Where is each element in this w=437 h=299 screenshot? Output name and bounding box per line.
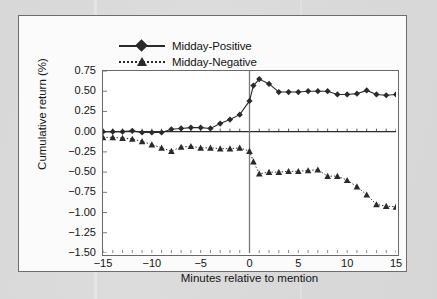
data-point-marker bbox=[344, 177, 351, 183]
x-tick-label: 15 bbox=[390, 257, 402, 269]
x-tick-label: 5 bbox=[295, 257, 301, 269]
legend-item-midday-positive: Midday-Positive bbox=[119, 38, 299, 54]
data-point-marker bbox=[266, 169, 273, 175]
data-point-marker bbox=[119, 129, 125, 135]
data-point-marker bbox=[285, 89, 291, 95]
data-point-marker bbox=[250, 158, 257, 164]
data-point-marker bbox=[159, 129, 165, 135]
data-point-marker bbox=[373, 91, 379, 97]
x-tick-label: 10 bbox=[341, 257, 353, 269]
data-point-marker bbox=[315, 88, 321, 94]
x-tick-label: −15 bbox=[94, 257, 113, 269]
x-tick-label: −10 bbox=[142, 257, 161, 269]
diamond-marker-icon bbox=[135, 39, 148, 52]
data-point-marker bbox=[246, 148, 253, 154]
y-axis-tick-labels: 0.750.500.250.00−0.25−0.50−0.75−1.00−1.2… bbox=[53, 70, 100, 254]
data-point-marker bbox=[227, 116, 233, 122]
plot-area bbox=[102, 70, 399, 256]
data-point-marker bbox=[325, 88, 331, 94]
y-tick-label: 0.50 bbox=[75, 84, 96, 96]
data-point-marker bbox=[324, 173, 331, 179]
y-tick-label: −1.25 bbox=[68, 226, 96, 238]
chart-canvas bbox=[103, 71, 396, 253]
data-point-marker bbox=[364, 87, 370, 93]
data-point-marker bbox=[227, 145, 234, 151]
triangle-marker-icon bbox=[137, 57, 147, 66]
data-point-marker bbox=[354, 183, 361, 189]
data-point-marker bbox=[188, 143, 195, 149]
data-point-marker bbox=[207, 125, 213, 131]
legend-swatch-midday-negative bbox=[119, 55, 165, 69]
data-point-marker bbox=[383, 92, 389, 98]
data-point-marker bbox=[383, 203, 390, 209]
legend-label-midday-positive: Midday-Positive bbox=[172, 40, 252, 52]
x-axis-title: Minutes relative to mention bbox=[102, 272, 397, 284]
y-tick-label: 0.00 bbox=[75, 125, 96, 137]
data-point-marker bbox=[305, 88, 311, 94]
data-point-marker bbox=[139, 138, 146, 144]
data-point-marker bbox=[178, 125, 184, 131]
data-point-marker bbox=[158, 145, 165, 151]
data-point-marker bbox=[188, 125, 194, 131]
legend-item-midday-negative: Midday-Negative bbox=[119, 54, 299, 70]
legend-label-midday-negative: Midday-Negative bbox=[172, 56, 257, 68]
data-point-marker bbox=[129, 128, 135, 134]
y-tick-label: −1.00 bbox=[68, 206, 96, 218]
chart-legend: Midday-Positive Midday-Negative bbox=[119, 38, 299, 72]
y-tick-label: −1.50 bbox=[68, 246, 96, 258]
y-tick-label: −0.50 bbox=[68, 165, 96, 177]
y-tick-label: 0.75 bbox=[75, 64, 96, 76]
data-point-marker bbox=[149, 129, 155, 135]
data-point-marker bbox=[354, 91, 360, 97]
data-point-marker bbox=[217, 120, 223, 126]
y-tick-label: −0.25 bbox=[68, 145, 96, 157]
data-point-marker bbox=[334, 91, 340, 97]
data-point-marker bbox=[149, 141, 156, 147]
x-tick-label: 0 bbox=[246, 257, 252, 269]
y-axis-title: Cumulative return (%) bbox=[36, 29, 48, 199]
data-point-marker bbox=[139, 129, 145, 135]
data-point-marker bbox=[344, 91, 350, 97]
data-point-marker bbox=[276, 169, 283, 175]
data-point-marker bbox=[236, 145, 243, 151]
data-point-marker bbox=[103, 129, 106, 135]
x-tick-label: −5 bbox=[194, 257, 207, 269]
figure-root: Midday-Positive Midday-Negative Cumulati… bbox=[0, 0, 437, 299]
data-point-marker bbox=[178, 144, 185, 150]
figure-panel: Midday-Positive Midday-Negative Cumulati… bbox=[18, 15, 407, 272]
x-axis-tick-labels: −15−10−5051015 bbox=[102, 257, 397, 273]
legend-swatch-midday-positive bbox=[119, 39, 165, 53]
y-tick-label: 0.25 bbox=[75, 104, 96, 116]
data-point-marker bbox=[103, 134, 106, 140]
data-point-marker bbox=[295, 89, 301, 95]
data-point-marker bbox=[110, 129, 116, 135]
data-point-marker bbox=[198, 125, 204, 131]
data-point-marker bbox=[393, 91, 396, 97]
y-tick-label: −0.75 bbox=[68, 185, 96, 197]
data-point-marker bbox=[129, 136, 136, 142]
